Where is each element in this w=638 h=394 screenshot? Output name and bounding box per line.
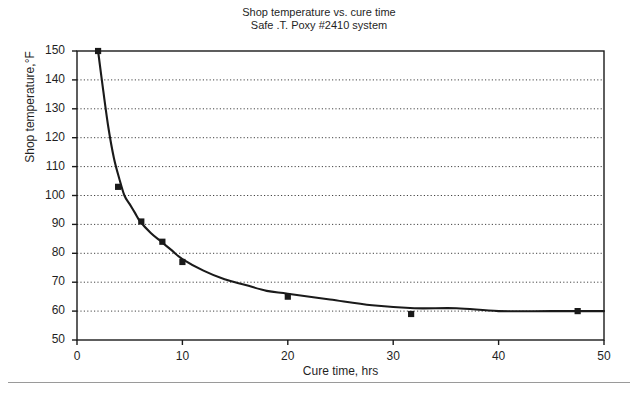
y-tick-label: 140: [25, 72, 65, 86]
y-tick-label: 90: [25, 216, 65, 230]
data-point: [95, 48, 101, 54]
data-point: [285, 294, 291, 300]
y-tick-label: 50: [25, 332, 65, 346]
x-tick-label: 10: [162, 349, 202, 363]
chart-figure: Shop temperature vs. cure time Safe .T. …: [0, 0, 638, 394]
y-tick-label: 60: [25, 303, 65, 317]
y-tick-label: 70: [25, 274, 65, 288]
y-tick-label: 100: [25, 188, 65, 202]
data-point: [115, 184, 121, 190]
data-point: [179, 259, 185, 265]
y-tick-label: 150: [25, 43, 65, 57]
data-point: [575, 308, 581, 314]
x-tick-label: 20: [268, 349, 308, 363]
y-tick-label: 110: [25, 159, 65, 173]
data-point: [408, 311, 414, 317]
data-curve: [98, 51, 604, 311]
x-tick-label: 40: [479, 349, 519, 363]
y-tick-label: 80: [25, 245, 65, 259]
data-point: [138, 218, 144, 224]
x-tick-label: 30: [373, 349, 413, 363]
y-tick-label: 120: [25, 130, 65, 144]
data-markers: [95, 48, 581, 317]
data-point: [159, 239, 165, 245]
plot-area: [0, 0, 638, 394]
x-tick-label: 0: [57, 349, 97, 363]
x-tick-label: 50: [584, 349, 624, 363]
y-tick-label: 130: [25, 101, 65, 115]
footer-divider: [8, 382, 630, 383]
gridlines: [77, 80, 604, 311]
